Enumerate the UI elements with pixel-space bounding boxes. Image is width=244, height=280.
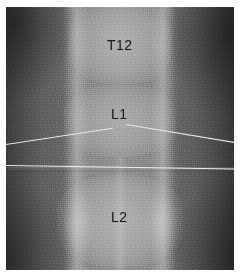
radiograph-image: T12 L1 L2 <box>6 7 234 270</box>
vertebra-label-t12: T12 <box>107 38 132 52</box>
vertebra-label-l2: L2 <box>111 210 127 224</box>
vertebra-label-l1: L1 <box>111 107 127 121</box>
radiograph-figure: T12 L1 L2 <box>0 0 244 280</box>
